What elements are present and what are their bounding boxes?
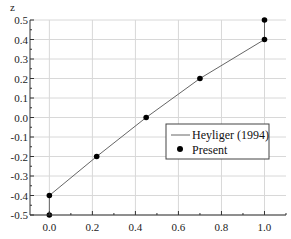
present-point bbox=[262, 17, 268, 23]
present-point bbox=[262, 37, 268, 43]
y-axis-title: z bbox=[10, 1, 15, 13]
x-tick-label: 0.8 bbox=[215, 221, 229, 233]
x-tick-label: 0.0 bbox=[42, 221, 56, 233]
y-tick-label: -0.3 bbox=[11, 170, 29, 182]
y-tick-label: -0.4 bbox=[11, 190, 29, 202]
present-point bbox=[143, 115, 149, 121]
present-point bbox=[197, 76, 203, 82]
legend: Heyliger (1994) Present bbox=[166, 124, 269, 159]
y-tick-label: 0.2 bbox=[14, 73, 28, 85]
y-tick-label: 0.3 bbox=[14, 53, 28, 65]
x-tick-label: 0.2 bbox=[86, 221, 100, 233]
x-tick-label: 1.0 bbox=[258, 221, 272, 233]
present-point bbox=[47, 193, 53, 199]
y-tick-label: -0.5 bbox=[11, 209, 29, 221]
y-tick-label: 0.4 bbox=[14, 34, 28, 46]
y-tick-label: 0.5 bbox=[14, 14, 28, 26]
present-point bbox=[94, 154, 100, 160]
legend-label-present: Present bbox=[192, 143, 228, 157]
y-tick-label: -0.2 bbox=[11, 151, 28, 163]
y-tick-label: 0.0 bbox=[14, 112, 28, 124]
legend-label-heyliger: Heyliger (1994) bbox=[192, 128, 269, 142]
x-tick-label: 0.6 bbox=[172, 221, 186, 233]
y-tick-label: -0.1 bbox=[11, 131, 28, 143]
y-tick-label: 0.1 bbox=[14, 92, 28, 104]
x-tick-label: 0.4 bbox=[129, 221, 143, 233]
legend-marker-swatch bbox=[177, 146, 183, 152]
chart: 0.00.20.40.60.81.0 0.50.40.30.20.10.0-0.… bbox=[0, 0, 291, 239]
x-ticks: 0.00.20.40.60.81.0 bbox=[42, 211, 286, 233]
